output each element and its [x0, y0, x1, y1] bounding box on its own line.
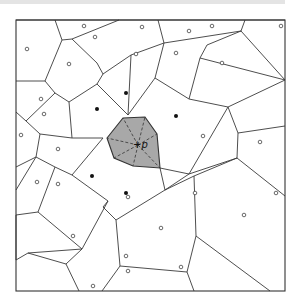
voronoi-edge	[38, 167, 55, 212]
voronoi-edge	[228, 80, 285, 107]
filled-site-icon	[124, 91, 128, 95]
voronoi-edge	[187, 272, 194, 291]
filled-site-icon	[95, 107, 99, 111]
voronoi-edge	[16, 253, 28, 260]
voronoi-edge	[228, 107, 238, 133]
voronoi-edge	[28, 249, 82, 253]
open-site-icon	[159, 226, 163, 230]
voronoi-edge	[158, 20, 164, 43]
voronoi-edge	[200, 58, 285, 80]
open-site-icon	[179, 265, 183, 269]
voronoi-edge	[36, 134, 40, 157]
voronoi-edge	[155, 43, 164, 78]
voronoi-edge	[103, 55, 131, 74]
voronoi-edge	[69, 84, 97, 102]
query-point-label: +p	[133, 139, 148, 150]
open-site-icon	[220, 61, 224, 65]
open-site-icon	[39, 97, 43, 101]
voronoi-diagram: +p	[0, 0, 299, 307]
voronoi-edge	[40, 134, 72, 138]
voronoi-edge	[55, 167, 72, 175]
open-site-icon	[42, 112, 46, 116]
voronoi-edge	[160, 168, 189, 174]
open-site-icon	[140, 25, 144, 29]
open-site-icon	[258, 140, 262, 144]
open-site-icon	[56, 147, 60, 151]
voronoi-edge	[45, 40, 62, 81]
voronoi-edge	[165, 176, 194, 190]
voronoi-edge	[97, 63, 103, 74]
voronoi-edge	[241, 20, 245, 31]
voronoi-edge	[97, 74, 103, 84]
voronoi-edge	[116, 190, 165, 220]
open-site-icon	[67, 62, 71, 66]
open-site-icon	[126, 195, 130, 199]
voronoi-edge	[82, 201, 108, 249]
voronoi-edge	[194, 158, 237, 176]
voronoi-edge	[72, 138, 103, 175]
open-site-icon	[201, 134, 205, 138]
open-site-icon	[82, 24, 86, 28]
open-site-icon	[56, 182, 60, 186]
voronoi-edge	[16, 212, 38, 215]
voronoi-edge	[128, 55, 131, 115]
voronoi-edge	[237, 133, 238, 158]
voronoi-edge	[189, 158, 237, 174]
open-site-icon	[126, 269, 130, 273]
open-site-icon	[134, 52, 138, 56]
voronoi-edge	[97, 84, 128, 115]
open-site-icon	[25, 47, 29, 51]
voronoi-edge	[165, 174, 189, 190]
voronoi-edge	[103, 207, 116, 220]
voronoi-edge	[194, 176, 196, 236]
voronoi-edge	[38, 212, 82, 249]
voronoi-edge	[55, 93, 69, 102]
open-site-icon	[187, 29, 191, 33]
voronoi-edge	[55, 20, 62, 40]
voronoi-edge	[26, 121, 40, 134]
voronoi-edge	[189, 99, 228, 107]
voronoi-edge	[160, 168, 165, 190]
voronoi-edge	[238, 126, 285, 133]
voronoi-edge	[196, 236, 270, 291]
voronoi-edge	[72, 175, 108, 201]
voronoi-edge	[116, 220, 120, 266]
filled-site-icon	[174, 114, 178, 118]
voronoi-edge	[16, 112, 26, 121]
voronoi-edge	[69, 102, 72, 138]
voronoi-edge	[128, 78, 155, 115]
voronoi-edge	[189, 58, 200, 99]
voronoi-edge	[187, 236, 196, 272]
voronoi-edge	[72, 39, 97, 63]
open-site-icon	[210, 24, 214, 28]
open-site-icon	[91, 284, 95, 288]
open-site-icon	[193, 191, 197, 195]
voronoi-edge	[66, 249, 82, 264]
open-site-icon	[274, 191, 278, 195]
open-site-icon	[279, 24, 283, 28]
voronoi-edge	[45, 81, 55, 93]
open-site-icon	[35, 180, 39, 184]
voronoi-edge	[155, 78, 189, 99]
open-site-icon	[93, 35, 97, 39]
voronoi-edge	[164, 31, 241, 43]
open-site-icon	[19, 133, 23, 137]
voronoi-edge	[66, 264, 79, 291]
filled-site-icon	[124, 191, 128, 195]
voronoi-edge	[237, 158, 285, 196]
open-site-icon	[124, 254, 128, 258]
voronoi-edge	[62, 39, 72, 40]
voronoi-edge	[36, 157, 55, 167]
voronoi-edge	[207, 31, 241, 45]
open-site-icon	[174, 51, 178, 55]
voronoi-edge	[200, 45, 207, 58]
open-site-icon	[71, 234, 75, 238]
voronoi-edge	[28, 253, 66, 264]
voronoi-edge	[102, 266, 120, 291]
voronoi-edge	[241, 31, 285, 80]
open-site-icon	[242, 213, 246, 217]
filled-site-icon	[90, 174, 94, 178]
